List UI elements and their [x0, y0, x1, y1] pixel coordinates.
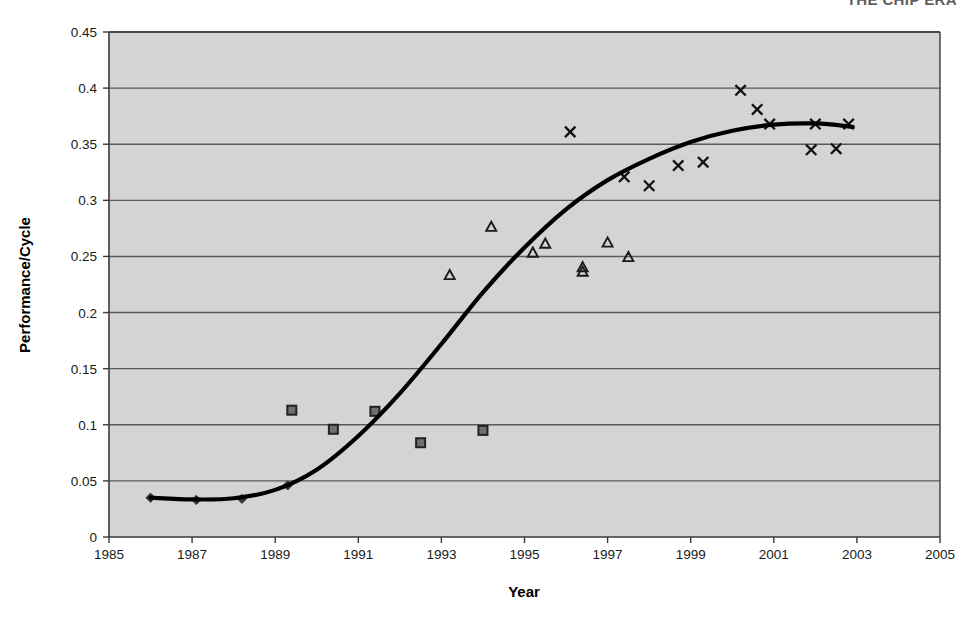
y-tick-label: 0.45: [71, 25, 97, 40]
x-tick-label: 1999: [676, 547, 706, 562]
data-point-square: [287, 406, 296, 415]
x-axis-tick-labels: 1985198719891991199319951997199920012003…: [94, 547, 955, 562]
plot-background: [109, 32, 940, 537]
y-tick-label: 0.35: [71, 137, 97, 152]
y-tick-label: 0.3: [78, 193, 97, 208]
y-axis-title: Performance/Cycle: [16, 217, 33, 353]
x-tick-label: 1991: [343, 547, 373, 562]
y-tick-label: 0.05: [71, 474, 97, 489]
y-tick-label: 0.4: [78, 81, 97, 96]
figure-root: THE CHIP ERA 198519871989199119931995199…: [0, 0, 979, 620]
data-point-square: [329, 425, 338, 434]
x-tick-label: 2003: [842, 547, 872, 562]
y-tick-label: 0: [89, 530, 97, 545]
x-tick-label: 1987: [177, 547, 207, 562]
performance-per-cycle-scatter-chart: 1985198719891991199319951997199920012003…: [0, 0, 979, 620]
y-tick-label: 0.2: [78, 306, 97, 321]
y-axis-ticks: [103, 32, 109, 537]
y-tick-label: 0.15: [71, 362, 97, 377]
data-point-square: [416, 438, 425, 447]
y-tick-label: 0.25: [71, 249, 97, 264]
data-point-square: [478, 426, 487, 435]
y-tick-label: 0.1: [78, 418, 97, 433]
x-tick-label: 1997: [593, 547, 623, 562]
y-axis-tick-labels: 00.050.10.150.20.250.30.350.40.45: [71, 25, 98, 545]
x-axis-title: Year: [508, 583, 540, 600]
x-tick-label: 1993: [426, 547, 456, 562]
x-tick-label: 2005: [925, 547, 955, 562]
x-tick-label: 2001: [759, 547, 789, 562]
x-tick-label: 1989: [260, 547, 290, 562]
plot-area-rect: [109, 32, 940, 537]
x-tick-label: 1985: [94, 547, 124, 562]
x-axis-ticks: [109, 537, 940, 543]
x-tick-label: 1995: [509, 547, 539, 562]
